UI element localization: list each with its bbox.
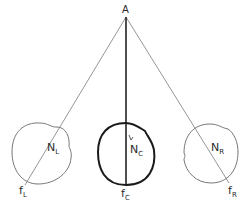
left-foot-label: fL [19, 184, 27, 199]
right-foot-label: fR [228, 184, 237, 199]
left-node-label: NL [47, 141, 59, 156]
center-node-label: NC [130, 143, 143, 158]
projection-diagram: A NL NC NR fL fC fR [0, 0, 249, 208]
apex-label: A [122, 4, 129, 15]
center-tick [129, 135, 133, 140]
ray-right [126, 17, 229, 183]
right-node-label: NR [211, 141, 224, 156]
ray-left [25, 17, 126, 185]
center-foot-label: fC [121, 187, 130, 202]
left-outline [12, 123, 71, 184]
